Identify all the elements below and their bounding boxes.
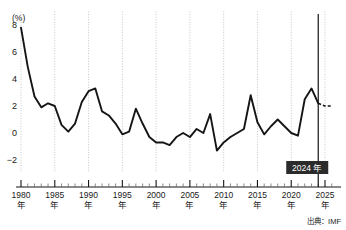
series-path-forecast (318, 103, 332, 106)
series-group (21, 28, 332, 151)
x-tick-label-1995: 1995 (113, 190, 132, 200)
x-tick-label-suffix-2015: 年 (253, 200, 262, 210)
y-tick-label-6: 6 (12, 47, 17, 57)
y-tick-label-0: 0 (12, 128, 17, 138)
x-tick-label-suffix-2005: 年 (185, 200, 194, 210)
y-tick-label-4: 4 (12, 74, 17, 84)
x-tick-label-2015: 2015 (248, 190, 267, 200)
y-axis-unit-label: (%) (12, 13, 25, 23)
x-axis-labels-group: 1980年1985年1990年1995年2000年2005年2010年2015年… (12, 190, 335, 210)
year-marker-group: 2024 年 (286, 14, 328, 187)
y-tick-label-2: 2 (12, 101, 17, 111)
x-tick-label-1990: 1990 (79, 190, 98, 200)
x-tick-label-1980: 1980 (12, 190, 31, 200)
source-attribution: 出典：IMF (307, 216, 341, 226)
x-tick-label-2025: 2025 (316, 190, 335, 200)
x-tick-label-suffix-2025: 年 (321, 200, 330, 210)
y-tick-label--2: −2 (7, 155, 17, 165)
x-tick-label-suffix-1985: 年 (50, 200, 59, 210)
inflation-rate-line-chart: 86420−2 1980年1985年1990年1995年2000年2005年20… (0, 0, 346, 230)
chart-svg: 86420−2 1980年1985年1990年1995年2000年2005年20… (0, 0, 346, 230)
x-axis-group (16, 180, 341, 187)
gridlines-group (21, 12, 325, 173)
y-axis-labels-group: 86420−2 (7, 20, 17, 165)
x-tick-label-suffix-1990: 年 (84, 200, 93, 210)
x-tick-label-2000: 2000 (147, 190, 166, 200)
x-tick-label-suffix-2020: 年 (287, 200, 296, 210)
year-callout-label: 2024 年 (292, 163, 322, 173)
x-tick-label-suffix-1980: 年 (17, 200, 26, 210)
series-path-actual (21, 28, 318, 151)
x-tick-label-suffix-2010: 年 (219, 200, 228, 210)
x-tick-label-2010: 2010 (214, 190, 233, 200)
x-tick-label-2005: 2005 (180, 190, 199, 200)
x-tick-label-suffix-1995: 年 (118, 200, 127, 210)
x-tick-label-suffix-2000: 年 (152, 200, 161, 210)
x-tick-label-2020: 2020 (282, 190, 301, 200)
x-tick-label-1985: 1985 (45, 190, 64, 200)
